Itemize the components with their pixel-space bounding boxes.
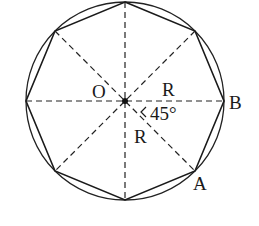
vertex-label-a: A (193, 173, 207, 194)
octagon-diagram: O R B 45° R A (0, 0, 259, 226)
angle-label: 45° (150, 103, 177, 124)
angle-arc-mark (141, 107, 146, 117)
center-point (122, 98, 128, 104)
radius-label-lower: R (134, 126, 147, 147)
center-label-o: O (92, 81, 106, 102)
radius-label-upper: R (162, 79, 175, 100)
vertex-label-b: B (229, 92, 242, 113)
